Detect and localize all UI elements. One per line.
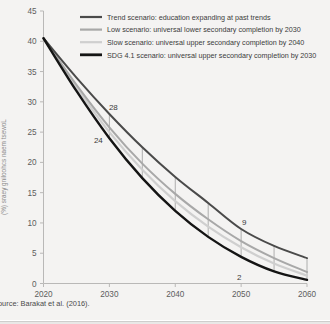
y-axis-ticks: 051015202530354045: [27, 7, 43, 289]
legend-label-sdg: SDG 4.1 scenario: universal upper second…: [107, 51, 316, 60]
curve-trend: [44, 38, 308, 258]
point-label: 28: [109, 103, 118, 112]
y-tick-label: 10: [27, 219, 37, 228]
y-tick-label: 35: [27, 68, 37, 77]
y-tick-label: 15: [27, 189, 37, 198]
legend-label-trend: Trend scenario: education expanding at p…: [107, 13, 271, 22]
chart-canvas: (%) sraey gniloohcs naem tsewoL 05101520…: [0, 0, 330, 324]
y-tick-label: 0: [32, 280, 37, 289]
source-note-area: ource: Barakat et al. (2016).: [0, 296, 330, 320]
figure-container: (%) sraey gniloohcs naem tsewoL 05101520…: [0, 0, 330, 324]
point-label: 24: [94, 136, 103, 145]
y-tick-label: 5: [32, 249, 37, 258]
y-axis-title: (%) sraey gniloohcs naem tsewoL: [0, 119, 8, 215]
curve-slow: [44, 38, 308, 275]
source-note: ource: Barakat et al. (2016).: [0, 299, 90, 308]
scenario-curves: [44, 38, 308, 280]
y-tick-label: 40: [27, 37, 37, 46]
page-divider-rule: [0, 320, 330, 324]
y-tick-label: 30: [27, 98, 37, 107]
y-tick-label: 20: [27, 158, 37, 167]
y-tick-label: 45: [27, 7, 37, 16]
legend-label-low: Low scenario: universal lower secondary …: [107, 25, 301, 34]
svg-text:(%) sraey gniloohcs naem tsewo: (%) sraey gniloohcs naem tsewoL: [0, 119, 8, 215]
point-label: 2: [237, 273, 242, 282]
scenario-range-connectors: [109, 114, 307, 280]
curve-low: [44, 38, 308, 272]
chart-legend: Trend scenario: education expanding at p…: [80, 13, 316, 60]
point-label: 9: [242, 218, 247, 227]
legend-label-slow: Slow scenario: universal upper secondary…: [107, 38, 304, 47]
y-tick-label: 25: [27, 128, 37, 137]
data-point-labels: 282492: [94, 103, 247, 282]
